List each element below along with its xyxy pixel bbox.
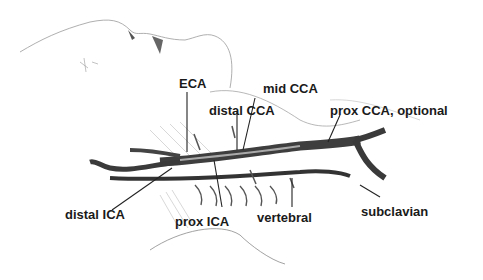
lip-shadow xyxy=(152,36,163,54)
label-distal-ica: distal ICA xyxy=(65,208,125,221)
label-mid-cca: mid CCA xyxy=(263,82,318,95)
label-eca: ECA xyxy=(179,77,206,90)
subclavian-artery xyxy=(355,130,385,178)
internal-carotid xyxy=(90,162,180,170)
cervical-spine xyxy=(195,185,277,206)
vertebral-artery xyxy=(110,171,350,179)
label-prox-ica: prox ICA xyxy=(175,215,229,228)
neck-illustration xyxy=(0,0,483,280)
ear-sketch xyxy=(80,58,98,72)
external-carotid xyxy=(130,150,180,156)
chest-contour xyxy=(150,229,285,264)
label-prox-cca: prox CCA, optional xyxy=(330,104,448,117)
label-vertebral: vertebral xyxy=(257,211,312,224)
anatomy-diagram: ECA mid CCA distal CCA prox CCA, optiona… xyxy=(0,0,483,280)
label-distal-cca: distal CCA xyxy=(209,104,275,117)
label-subclavian: subclavian xyxy=(361,205,428,218)
